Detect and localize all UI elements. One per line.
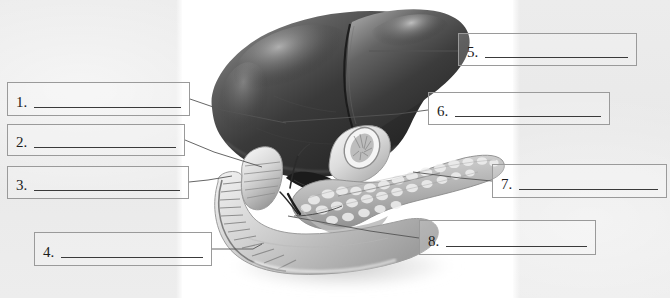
answer-number-5: 5. (467, 45, 478, 60)
answer-box-2[interactable]: 2. (7, 124, 185, 156)
answer-number-1: 1. (16, 95, 27, 110)
answer-blank-1[interactable] (34, 107, 181, 108)
answer-box-6[interactable]: 6. (428, 92, 610, 125)
answer-number-2: 2. (16, 135, 27, 150)
answer-blank-4[interactable] (61, 257, 203, 258)
answer-number-4: 4. (43, 245, 54, 260)
answer-blank-6[interactable] (455, 116, 601, 117)
answer-box-8[interactable]: 8. (419, 220, 596, 255)
answer-number-3: 3. (16, 178, 27, 193)
answer-box-7[interactable]: 7. (492, 164, 667, 198)
answer-box-3[interactable]: 3. (7, 166, 189, 199)
answer-number-7: 7. (501, 177, 512, 192)
worksheet-page: 1. 2. 3. 4. 5. 6. 7. 8. (0, 0, 670, 298)
answer-number-8: 8. (428, 234, 439, 249)
answer-box-4[interactable]: 4. (34, 232, 212, 266)
answer-blank-7[interactable] (519, 189, 658, 190)
answer-blank-2[interactable] (34, 147, 176, 148)
answer-blank-5[interactable] (485, 57, 628, 58)
answer-box-5[interactable]: 5. (458, 33, 637, 66)
answer-blank-8[interactable] (446, 246, 587, 247)
answer-blank-3[interactable] (34, 190, 180, 191)
answer-box-1[interactable]: 1. (7, 82, 190, 116)
answer-number-6: 6. (437, 104, 448, 119)
